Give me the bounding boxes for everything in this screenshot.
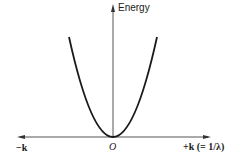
k-axis-left-arrow-icon xyxy=(17,135,25,139)
energy-axis-label: Energy xyxy=(118,2,150,13)
energy-axis-arrow-icon xyxy=(111,4,115,12)
k-axis-right-arrow-icon xyxy=(203,135,211,139)
positive-k-label: +k (= 1/λ) xyxy=(183,141,224,152)
negative-k-label: −k xyxy=(16,142,27,153)
origin-label: O xyxy=(109,141,116,152)
energy-dispersion-diagram xyxy=(0,0,244,161)
